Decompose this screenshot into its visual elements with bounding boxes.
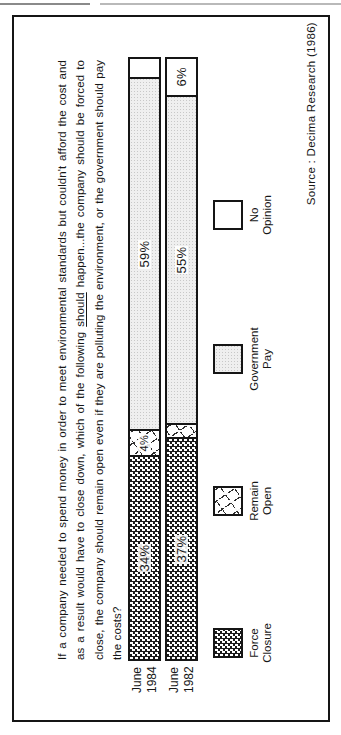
legend-label-line: Government bbox=[248, 299, 261, 419]
value-label-text: 55% bbox=[175, 246, 188, 275]
bar-row-june-1982: 37% 55% 6% bbox=[165, 57, 198, 661]
legend-label: Government Pay bbox=[248, 299, 274, 419]
legend-label-line: Closure bbox=[261, 583, 274, 703]
segment-government-pay: 55% bbox=[167, 97, 196, 426]
legend-item-force-closure: Force Closure bbox=[213, 583, 274, 703]
question-line-3: close, the company should remain open ev… bbox=[90, 60, 108, 660]
legend-label-line: Force bbox=[248, 583, 261, 703]
segment-force-closure: 34% bbox=[130, 457, 159, 659]
segment-no-opinion: 6% bbox=[167, 59, 196, 97]
value-label: 59% bbox=[130, 79, 159, 429]
underlined-word: should bbox=[74, 292, 86, 327]
segment-government-pay: 59% bbox=[130, 79, 159, 431]
question-line-1-text: If a company needed to spend money in or… bbox=[56, 60, 68, 660]
legend-item-government-pay: Government Pay bbox=[213, 299, 274, 419]
value-label: 37% bbox=[167, 439, 196, 659]
value-label-text: 37% bbox=[175, 535, 188, 564]
question-line-1: If a company needed to spend money in or… bbox=[53, 60, 71, 660]
question-line-2-pre: as a result would have to close down, wh… bbox=[74, 327, 86, 660]
row-label-line: June bbox=[167, 659, 182, 693]
legend-swatch-force-closure bbox=[213, 628, 243, 658]
legend-label-line: Opinion bbox=[261, 155, 274, 275]
legend-label-line: No bbox=[248, 155, 261, 275]
question-text: If a company needed to spend money in or… bbox=[53, 60, 126, 660]
value-label: 6% bbox=[167, 59, 196, 95]
value-label: 34% bbox=[130, 457, 159, 659]
scan-artifact-line bbox=[0, 3, 90, 5]
legend-label: Force Closure bbox=[248, 583, 274, 703]
value-label bbox=[130, 59, 159, 77]
segment-remain-open: 4% bbox=[130, 431, 159, 457]
row-label-line: June bbox=[130, 659, 145, 693]
screenshot-root: If a company needed to spend money in or… bbox=[0, 0, 341, 735]
legend-label: No Opinion bbox=[248, 155, 274, 275]
row-label-line: 1982 bbox=[182, 659, 197, 693]
legend-item-remain-open: Remain Open bbox=[213, 441, 274, 561]
value-label: 55% bbox=[167, 97, 196, 424]
question-line-3-text: close, the company should remain open ev… bbox=[93, 60, 105, 660]
legend-item-no-opinion: No Opinion bbox=[213, 155, 274, 275]
value-label-text: 6% bbox=[175, 66, 188, 87]
value-label-text: 4% bbox=[138, 434, 151, 453]
segment-force-closure: 37% bbox=[167, 439, 196, 659]
legend-swatch-no-opinion bbox=[213, 200, 243, 230]
legend-label-line: Pay bbox=[261, 299, 274, 419]
scan-artifact-line bbox=[100, 3, 341, 5]
rotated-chart-canvas: If a company needed to spend money in or… bbox=[0, 0, 341, 735]
source-note: Source : Decima Research (1986) bbox=[305, 22, 317, 205]
row-label-june-1984: June 1984 bbox=[130, 659, 160, 693]
bar-row-june-1984: 34% 4% 59% bbox=[128, 57, 161, 661]
legend-label: Remain Open bbox=[248, 441, 274, 561]
legend-swatch-government-pay bbox=[213, 344, 243, 374]
value-label: 4% bbox=[130, 431, 159, 455]
row-label-line: 1984 bbox=[145, 659, 160, 693]
legend-swatch-remain-open bbox=[213, 486, 243, 516]
question-line-4-text: the costs? bbox=[111, 607, 123, 660]
question-line-4: the costs? bbox=[108, 60, 126, 660]
segment-no-opinion bbox=[130, 59, 159, 79]
value-label bbox=[167, 425, 196, 437]
question-line-2-post: happen...the company should be forced to bbox=[74, 60, 86, 292]
legend-label-line: Remain bbox=[248, 441, 261, 561]
value-label-text: 34% bbox=[138, 544, 151, 573]
segment-remain-open bbox=[167, 425, 196, 439]
row-label-june-1982: June 1982 bbox=[167, 659, 197, 693]
question-line-2: as a result would have to close down, wh… bbox=[71, 60, 89, 660]
legend-label-line: Open bbox=[261, 441, 274, 561]
value-label-text: 59% bbox=[138, 240, 151, 269]
